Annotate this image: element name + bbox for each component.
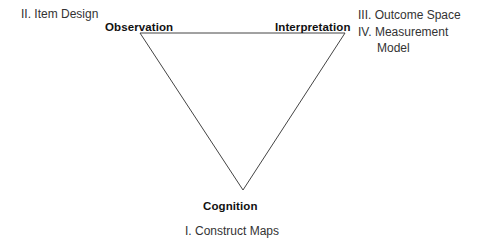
inverted-triangle-shape bbox=[140, 33, 345, 190]
note-line-model: Model bbox=[358, 40, 461, 57]
note-construct-maps: I. Construct Maps bbox=[185, 224, 279, 239]
note-line-outcome-space: III. Outcome Space bbox=[358, 7, 461, 24]
vertex-label-observation: Observation bbox=[105, 20, 173, 35]
vertex-label-interpretation: Interpretation bbox=[275, 20, 351, 35]
note-line-measurement: IV. Measurement bbox=[358, 24, 461, 41]
note-item-design: II. Item Design bbox=[21, 7, 98, 22]
diagram-canvas: Observation Interpretation Cognition II.… bbox=[0, 0, 482, 243]
note-outcome-space-measurement-model: III. Outcome Space IV. Measurement Model bbox=[358, 7, 461, 57]
vertex-label-cognition: Cognition bbox=[203, 199, 258, 214]
